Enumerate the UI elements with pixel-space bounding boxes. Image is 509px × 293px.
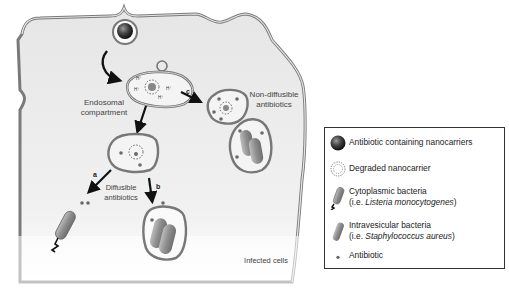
legend-item-degraded: Degraded nanocarrier	[329, 160, 430, 178]
cytoplasmic-bacteria-icon	[329, 186, 347, 210]
pathway-c-label: c	[186, 88, 190, 95]
antibiotic-dot	[161, 201, 165, 205]
legend-line2-suffix: )	[452, 231, 455, 241]
pathway-b-label: b	[156, 183, 160, 190]
diffusion-vesicle	[108, 134, 158, 172]
diffusible-label: Diffusible antibiotics	[96, 183, 146, 203]
legend-item-intravesicular: Intravesicular bacteria (i.e. Staphyloco…	[329, 220, 455, 244]
nanocarrier-sphere-icon	[329, 134, 347, 152]
species-name: Listeria monocytogenes	[365, 197, 453, 207]
legend-line2-prefix: (i.e.	[349, 231, 365, 241]
svg-text:H⁺: H⁺	[134, 87, 140, 92]
legend-line2-prefix: (i.e.	[349, 197, 365, 207]
diagram-canvas: H⁺ H⁺ H⁺ H⁺	[0, 0, 509, 293]
svg-text:H⁺: H⁺	[136, 76, 142, 81]
legend-item-antibiotic: Antibiotic	[329, 250, 383, 262]
legend-label: Antibiotic	[349, 250, 383, 261]
antibiotic-dot	[80, 201, 84, 205]
degraded-nanocarrier-icon	[329, 160, 347, 178]
label-line: Endosomal	[72, 98, 136, 108]
endosomal-compartment-label: Endosomal compartment	[72, 98, 136, 118]
legend-line2-suffix: )	[454, 197, 457, 207]
label-line: antibiotics	[244, 100, 304, 110]
svg-text:H⁺: H⁺	[158, 95, 164, 100]
legend: Antibiotic containing nanocarriers Degra…	[324, 127, 505, 269]
intravesicular-vesicle	[143, 207, 186, 260]
legend-line1: Cytoplasmic bacteria	[349, 186, 427, 196]
label-line: compartment	[72, 108, 136, 118]
legend-item-nanocarrier: Antibiotic containing nanocarriers	[329, 134, 472, 152]
non-diffusible-label: Non-diffusible antibiotics	[244, 90, 304, 110]
svg-text:H⁺: H⁺	[166, 86, 172, 91]
antibiotic-dot-icon	[329, 250, 347, 262]
legend-label: Intravesicular bacteria (i.e. Staphyloco…	[349, 220, 455, 242]
legend-line1: Intravesicular bacteria	[349, 220, 431, 230]
antibiotic-dot	[86, 201, 90, 205]
legend-label: Cytoplasmic bacteria (i.e. Listeria mono…	[349, 186, 457, 208]
infected-cells-label: Infected cells	[236, 256, 296, 266]
label-line: Diffusible	[96, 183, 146, 193]
label-line: Non-diffusible	[244, 90, 304, 100]
legend-label: Degraded nanocarrier	[349, 163, 430, 174]
species-name: Staphylococcus aureus	[365, 231, 452, 241]
legend-item-cytoplasmic: Cytoplasmic bacteria (i.e. Listeria mono…	[329, 186, 457, 210]
legend-label: Antibiotic containing nanocarriers	[349, 137, 472, 148]
entering-nanocarrier	[113, 20, 137, 44]
label-line: antibiotics	[96, 193, 146, 203]
intravesicular-bacteria-icon	[329, 220, 347, 244]
pathway-a-label: a	[93, 171, 97, 178]
nanocarrier-sphere-icon	[117, 23, 133, 39]
